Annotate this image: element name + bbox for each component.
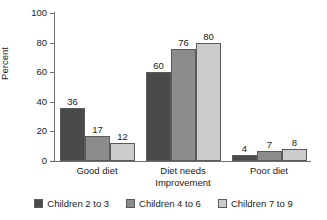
y-tick-40: 40 [0,102,54,103]
y-tick-20: 20 [0,131,54,132]
y-tick-label-40: 40 [36,96,47,107]
bar-diet-needs-improvement-children-4-to-6[interactable]: 76 [171,49,196,162]
legend-swatch-icon [34,199,43,208]
y-tick-80: 80 [0,43,54,44]
bar-good-diet-children-2-to-3[interactable]: 36 [60,108,85,161]
y-tick-label-60: 60 [36,66,47,77]
x-axis-label-good-diet: Good diet [57,165,137,177]
y-tick-label-0: 0 [42,155,47,166]
legend-label: Children 2 to 3 [47,198,109,209]
bar-value-label: 12 [117,131,128,142]
y-tick-0: 0 [0,161,54,162]
legend-item-children-2-to-3[interactable]: Children 2 to 3 [34,198,109,209]
legend-item-children-4-to-6[interactable]: Children 4 to 6 [126,198,201,209]
bar-value-label: 80 [203,31,214,42]
bar-value-label: 4 [242,143,247,154]
bar-chart: Percent 0 20 40 60 80 100 36 17 [0,0,327,220]
legend-label: Children 4 to 6 [139,198,201,209]
bar-value-label: 17 [92,124,103,135]
bar-poor-diet-children-7-to-9[interactable]: 8 [282,149,307,161]
bar-value-label: 76 [178,37,189,48]
bar-good-diet-children-4-to-6[interactable]: 17 [85,136,110,161]
bar-good-diet-children-7-to-9[interactable]: 12 [110,143,135,161]
bar-poor-diet-children-4-to-6[interactable]: 7 [257,151,282,161]
y-tick-label-100: 100 [31,7,47,18]
bar-value-label: 36 [67,96,78,107]
bar-group-poor-diet: 4 7 8 [232,13,306,161]
x-axis-label-line-1: Poor diet [250,165,288,176]
y-tick-label-20: 20 [36,125,47,136]
y-tick-60: 60 [0,72,54,73]
legend: Children 2 to 3 Children 4 to 6 Children… [0,198,327,209]
legend-swatch-icon [218,199,227,208]
legend-item-children-7-to-9[interactable]: Children 7 to 9 [218,198,293,209]
y-tick-label-80: 80 [36,37,47,48]
x-axis-label-line-1: Diet needs [160,165,205,176]
x-axis-label-diet-needs-improvement: Diet needs Improvement [143,165,223,189]
legend-label: Children 7 to 9 [231,198,293,209]
bar-poor-diet-children-2-to-3[interactable]: 4 [232,155,257,161]
x-axis-line [54,161,311,162]
bar-value-label: 8 [292,137,297,148]
plot-area: 36 17 12 60 76 80 4 [55,13,310,161]
x-axis-label-line-2: Improvement [143,177,223,189]
bar-value-label: 7 [267,139,272,150]
x-axis-label-poor-diet: Poor diet [229,165,309,177]
y-tick-100: 100 [0,13,54,14]
bar-group-diet-needs-improvement: 60 76 80 [146,13,220,161]
bar-diet-needs-improvement-children-7-to-9[interactable]: 80 [196,43,221,161]
bar-value-label: 60 [153,60,164,71]
bar-diet-needs-improvement-children-2-to-3[interactable]: 60 [146,72,171,161]
x-axis-label-line-1: Good diet [76,165,117,176]
legend-swatch-icon [126,199,135,208]
bar-group-good-diet: 36 17 12 [60,13,134,161]
